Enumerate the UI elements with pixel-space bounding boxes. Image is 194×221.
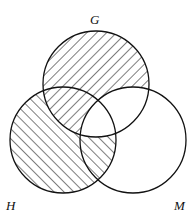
label-m: M — [174, 199, 185, 212]
label-h: H — [6, 199, 15, 212]
venn-diagram — [0, 0, 194, 221]
label-g: G — [90, 13, 99, 26]
